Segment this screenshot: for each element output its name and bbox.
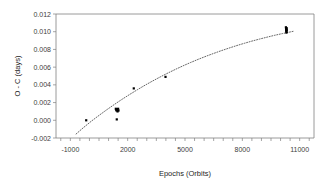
x-tick-label: 11000 [290, 146, 309, 153]
data-points [85, 26, 288, 121]
data-point [133, 87, 135, 89]
y-tick-label: 0.012 [33, 11, 51, 18]
y-tick-label: 0.008 [33, 46, 51, 53]
y-tick-label: 0.006 [33, 64, 51, 71]
y-axis-tick-labels: -0.0020.0000.0020.0040.0060.0080.0100.01… [31, 11, 51, 142]
x-tick-label: 2000 [120, 146, 136, 153]
y-tick-label: 0.002 [33, 99, 51, 106]
data-point [285, 32, 287, 34]
o-minus-c-scatter-chart: -0.0020.0000.0020.0040.0060.0080.0100.01… [0, 0, 334, 182]
x-axis-tick-labels: -100020005000800011000 [61, 146, 309, 153]
data-point [164, 76, 166, 78]
x-axis-ticks [61, 138, 309, 141]
y-axis-ticks [53, 14, 56, 138]
y-axis-title: O - C (days) [13, 55, 22, 96]
x-tick-label: -1000 [61, 146, 79, 153]
x-axis-title: Epochs (Orbits) [159, 169, 212, 178]
y-tick-label: 0.010 [33, 28, 51, 35]
y-tick-label: 0.000 [33, 117, 51, 124]
x-tick-label: 8000 [235, 146, 251, 153]
data-point [85, 119, 87, 121]
chart-figure: -0.0020.0000.0020.0040.0060.0080.0100.01… [0, 0, 334, 182]
data-point [117, 109, 119, 111]
plot-frame [56, 14, 314, 138]
y-tick-label: 0.004 [33, 81, 51, 88]
trendline [76, 31, 294, 134]
y-tick-label: -0.002 [31, 135, 51, 142]
data-point [116, 118, 118, 120]
x-tick-label: 5000 [177, 146, 193, 153]
data-point [286, 29, 288, 31]
